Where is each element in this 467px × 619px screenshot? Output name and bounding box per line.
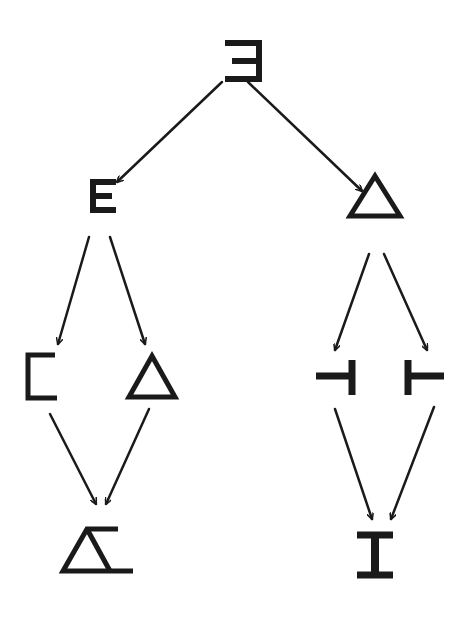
node-right-2a-left-tack [316, 360, 352, 395]
edge-right-2a-to-right-3 [335, 409, 372, 519]
edge-right-1-to-right-2b [384, 254, 427, 350]
node-right-1-triangle [350, 176, 400, 216]
edge-right-1-to-right-2a [335, 254, 369, 350]
edge-left-2a-to-left-3 [50, 414, 96, 504]
node-right-3-i-beam [357, 535, 393, 575]
node-root-reversed-e [225, 43, 259, 79]
edge-left-2b-to-left-3 [106, 409, 149, 504]
node-left-2a-bracket [28, 355, 57, 398]
edge-left-1-to-left-2b [110, 237, 145, 344]
node-left-2b-triangle [129, 356, 175, 397]
diagram-canvas [0, 0, 467, 619]
node-right-2b-right-tack [408, 360, 444, 395]
edge-root-to-right-1 [248, 82, 362, 191]
node-left-3-triangle-with-lines [63, 529, 133, 571]
edge-root-to-left-1 [117, 82, 222, 182]
node-left-1-e [93, 182, 116, 210]
edge-right-2b-to-right-3 [391, 407, 434, 519]
edge-left-1-to-left-2a [58, 237, 89, 344]
